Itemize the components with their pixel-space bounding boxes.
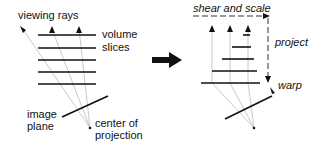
label-center-of: center of: [95, 117, 139, 129]
sheared-ray-arrowheads: [209, 25, 251, 32]
project-arrow-icon: [265, 76, 271, 83]
image-plane: [62, 96, 108, 117]
sheared-rays: [212, 30, 254, 128]
transform-arrow-icon: [152, 52, 182, 68]
label-shear-and-scale: shear and scale: [193, 2, 271, 14]
center-of-projection-point: [253, 127, 256, 130]
scaled-slices: [201, 35, 260, 83]
label-slices: slices: [102, 41, 130, 53]
label-warp: warp: [278, 79, 302, 91]
warp-arrow-icon: [270, 87, 275, 94]
label-plane: plane: [27, 120, 54, 132]
label-volume: volume: [102, 28, 137, 40]
volume-rendering-diagram: viewing rays volume slices image plane c…: [0, 0, 319, 148]
ray-arrow-icon: [245, 25, 251, 32]
center-of-projection-point: [89, 127, 92, 130]
label-image: image: [27, 108, 57, 120]
dashed-process-path: [193, 16, 268, 78]
label-projection: projection: [95, 129, 143, 141]
volume-slices: [38, 35, 96, 84]
label-project: project: [274, 36, 309, 48]
label-viewing-rays: viewing rays: [18, 9, 79, 21]
right-panel: shear and scale project warp: [193, 2, 309, 129]
ray-arrow-icon: [49, 26, 55, 33]
ray-arrow-icon: [76, 26, 82, 33]
ray-arrow-icon: [209, 25, 215, 32]
ray-arrowheads: [20, 26, 82, 33]
left-panel: viewing rays volume slices image plane c…: [18, 9, 143, 141]
ray-arrow-icon: [227, 25, 233, 32]
image-plane-warped: [225, 96, 272, 119]
